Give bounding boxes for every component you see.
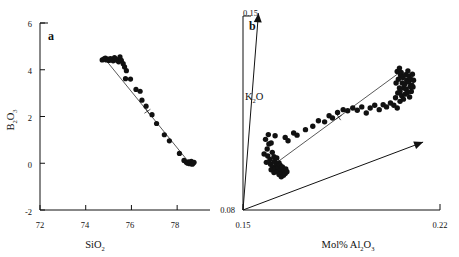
- panel-b-data-point: [364, 110, 369, 115]
- panel-b-data-point: [345, 108, 350, 113]
- panel-b-data-point: [272, 133, 277, 138]
- panel-b-midpoint-cross: [336, 114, 342, 120]
- panel-b-data-point: [268, 140, 273, 145]
- panel-a-data-point: [149, 112, 154, 117]
- panel-b-data-point: [310, 124, 315, 129]
- panel-b-data-point: [405, 68, 410, 73]
- panel-a-data-point: [124, 68, 129, 73]
- panel-b-data-point: [266, 132, 271, 137]
- panel-b-axes: [243, 16, 440, 210]
- panel-b-data-point: [274, 155, 279, 160]
- panel-a-data-point: [138, 89, 143, 94]
- panel-b-data-point: [263, 137, 268, 142]
- panel-b-data-point: [372, 103, 377, 108]
- panel-b-data-point: [335, 110, 340, 115]
- panel-b-data-point: [316, 118, 321, 123]
- panel-a-axes: [40, 23, 210, 210]
- panel-b-data-point: [285, 138, 290, 143]
- panel-b-data-point: [395, 105, 400, 110]
- panel-b-data-point: [330, 115, 335, 120]
- panel-a-data-point: [154, 121, 159, 126]
- k2o-axis-arrow-head: [254, 13, 262, 22]
- figure-svg: [0, 0, 459, 257]
- panel-a-data-point: [191, 160, 196, 165]
- panel-b-data-point: [303, 127, 308, 132]
- panel-b-data-point: [393, 95, 398, 100]
- panel-b-data-point: [359, 104, 364, 109]
- panel-b-data-point: [407, 94, 412, 99]
- panel-a-data-point: [128, 77, 133, 82]
- panel-a-data-point: [123, 76, 128, 81]
- panel-a-data-point: [143, 104, 148, 109]
- panel-a-data-point: [167, 138, 172, 143]
- panel-a-data-point: [177, 151, 182, 156]
- panel-b-data-point: [340, 107, 345, 112]
- figure-container: a b 72 74 76 78 6 4 2 0 -2 SiO2 B2O3 0.1…: [0, 0, 459, 257]
- k2o-axis-arrow: [243, 13, 258, 210]
- panel-b-data-point: [322, 119, 327, 124]
- panel-b-data-point: [410, 72, 415, 77]
- panel-b-data-point: [368, 105, 373, 110]
- panel-b-data-point: [355, 108, 360, 113]
- panel-a-data-point: [162, 132, 167, 137]
- panel-b-data-point: [294, 132, 299, 137]
- al2o3-trend-arrow-head: [413, 142, 423, 149]
- panel-b-data-point: [411, 78, 416, 83]
- panel-b-data-point: [265, 146, 270, 151]
- panel-b-data-point: [284, 169, 289, 174]
- panel-b-data-point: [377, 107, 382, 112]
- panel-b-data-point: [384, 104, 389, 109]
- panel-a-data-point: [139, 98, 144, 103]
- panel-b-data-point: [410, 84, 415, 89]
- panel-b-data-point: [401, 96, 406, 101]
